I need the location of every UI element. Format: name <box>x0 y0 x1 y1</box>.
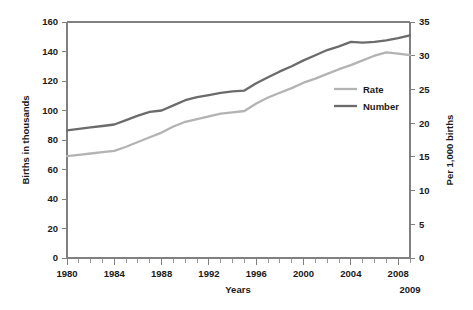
y-axis-right-title: Per 1,000 births <box>444 115 455 186</box>
y-tick-label-right: 0 <box>419 252 424 263</box>
y-tick-label-right: 30 <box>419 50 430 61</box>
y-tick-label-right: 20 <box>419 118 430 129</box>
y-axis-left-title: Births in thousands <box>20 95 31 184</box>
y-tick-label-left: 140 <box>42 46 58 57</box>
chart-canvas: 020406080100120140160 05101520253035 198… <box>0 0 473 310</box>
y-tick-label-left: 100 <box>42 105 58 116</box>
y-tick-label-left: 40 <box>47 193 58 204</box>
y-tick-label-right: 10 <box>419 185 430 196</box>
y-tick-label-left: 120 <box>42 75 58 86</box>
y-tick-label-right: 25 <box>419 84 430 95</box>
x-tick-label: 1980 <box>56 268 77 279</box>
x-tick-label: 2004 <box>340 268 362 279</box>
y-tick-label-right: 15 <box>419 151 430 162</box>
x-tick-label: 2000 <box>293 268 314 279</box>
y-tick-label-right: 5 <box>419 219 425 230</box>
y-tick-label-right: 35 <box>419 16 430 27</box>
x-tick-label: 1992 <box>198 268 219 279</box>
line-chart: 020406080100120140160 05101520253035 198… <box>0 0 473 310</box>
x-axis-end-year-label: 2009 <box>399 284 420 295</box>
y-tick-label-left: 80 <box>47 134 58 145</box>
x-axis-title: Years <box>225 284 250 295</box>
y-tick-label-left: 20 <box>47 223 58 234</box>
y-tick-label-left: 160 <box>42 16 58 27</box>
x-tick-label: 1996 <box>246 268 267 279</box>
x-tick-label: 1984 <box>104 268 126 279</box>
x-tick-label: 2008 <box>388 268 409 279</box>
y-tick-label-left: 0 <box>53 252 58 263</box>
legend-label-rate: Rate <box>363 84 384 95</box>
x-tick-label: 1988 <box>151 268 172 279</box>
y-tick-label-left: 60 <box>47 164 58 175</box>
legend-label-number: Number <box>363 101 399 112</box>
